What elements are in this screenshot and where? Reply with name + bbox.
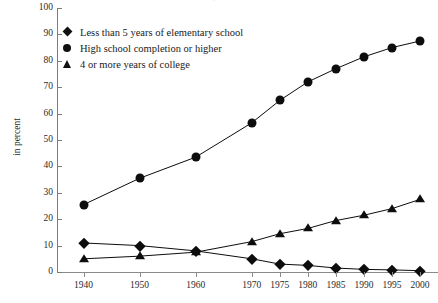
chart-legend: Less than 5 years of elementary school H… [60,24,243,72]
x-axis-tick [308,272,309,277]
y-axis-tick-label: 80 [27,56,53,66]
x-axis-tick [420,272,421,277]
y-axis-tick-label: 0 [27,267,53,277]
y-axis-tick-label: 70 [27,82,53,92]
y-axis-tick [57,8,62,9]
y-axis-tick [57,114,62,115]
figure-title: Educational attainment, 1940-2000: Unite… [0,0,438,1]
x-axis-tick [336,272,337,277]
legend-item-less-than-5-years: Less than 5 years of elementary school [60,24,243,40]
x-axis-tick-label: 1980 [288,281,328,291]
y-axis-tick [57,193,62,194]
circle-data-point [416,37,425,46]
series-line [84,199,421,258]
diamond-marker-icon [60,24,80,40]
triangle-data-point [247,237,257,245]
y-axis-tick [57,34,62,35]
legend-item-label: Less than 5 years of elementary school [80,27,243,38]
x-axis-tick [84,272,85,277]
legend-item-high-school-completion: High school completion or higher [60,40,243,56]
circle-data-point [135,174,144,183]
triangle-data-point [415,195,425,203]
x-axis-tick [392,272,393,277]
circle-data-point [331,64,340,73]
triangle-data-point [303,224,313,232]
x-axis-tick-label: 1950 [120,281,160,291]
series-line [84,243,421,271]
circle-data-point [191,153,200,162]
y-axis-tick [57,61,62,62]
diamond-data-point [246,253,257,264]
x-axis-tick-label: 1990 [344,281,384,291]
x-axis-tick-label: 1960 [176,281,216,291]
y-axis-tick-label: 40 [27,161,53,171]
y-axis-tick-label: 30 [27,188,53,198]
circle-data-point [359,52,368,61]
x-axis-tick-label: 1995 [372,281,412,291]
y-axis-tick [57,140,62,141]
educational-attainment-line-chart: Educational attainment, 1940-2000: Unite… [0,0,438,303]
y-axis-tick-label: 90 [27,29,53,39]
diamond-data-point [274,259,285,270]
y-axis-title: in percent [12,107,22,167]
diamond-data-point [78,238,89,249]
triangle-data-point [135,251,145,259]
x-axis-tick [252,272,253,277]
circle-data-point [275,96,284,105]
y-axis-tick [57,166,62,167]
triangle-data-point [387,204,397,212]
triangle-data-point [359,210,369,218]
x-axis-tick-label: 1975 [260,281,300,291]
x-axis-tick [364,272,365,277]
triangle-data-point [275,229,285,237]
diamond-data-point [134,240,145,251]
y-axis-tick-label: 100 [27,3,53,13]
x-axis-line [57,272,438,273]
x-axis-tick-label: 1985 [316,281,356,291]
y-axis-tick [57,246,62,247]
diamond-data-point [303,260,314,271]
y-axis-tick [57,87,62,88]
circle-marker-icon [60,40,80,56]
y-axis-tick [57,272,62,273]
diamond-data-point [190,246,201,257]
circle-data-point [79,200,88,209]
circle-data-point [303,77,312,86]
triangle-data-point [191,247,201,255]
y-axis-tick-label: 10 [27,241,53,251]
x-axis-tick-label: 1940 [64,281,104,291]
y-axis-tick-labels: 0102030405060708090100 [24,0,53,303]
triangle-data-point [331,216,341,224]
x-axis-tick [196,272,197,277]
x-axis-tick-label: 2000 [400,281,438,291]
triangle-data-point [79,254,89,262]
circle-data-point [387,43,396,52]
y-axis-tick-label: 60 [27,109,53,119]
x-axis-tick [280,272,281,277]
legend-item-label: 4 or more years of college [80,59,190,70]
legend-item-label: High school completion or higher [80,43,222,54]
y-axis-tick-label: 50 [27,135,53,145]
circle-data-point [247,118,256,127]
y-axis-tick [57,219,62,220]
x-axis-tick [140,272,141,277]
y-axis-tick-label: 20 [27,214,53,224]
legend-item-four-or-more-years-college: 4 or more years of college [60,56,243,72]
triangle-marker-icon [60,56,80,72]
x-axis-tick-label: 1970 [232,281,272,291]
